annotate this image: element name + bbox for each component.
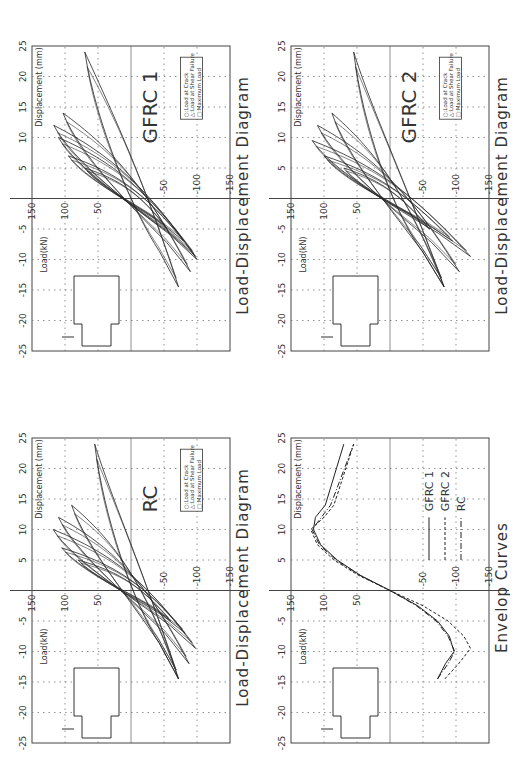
x-tick-label: -15: [18, 675, 28, 690]
specimen-label: RC: [138, 486, 162, 513]
y-tick-label: -50: [159, 180, 169, 195]
chart-svg: -25-20-15-10-551015202515010050-50-100-1…: [259, 392, 518, 783]
y-tick-label: 50: [352, 202, 362, 214]
marker-legend-item: ○:Load at Crack: [183, 464, 189, 509]
x-tick-label: 20: [277, 463, 287, 475]
x-tick-label: -10: [277, 252, 287, 267]
y-tick-label: 50: [93, 594, 103, 606]
marker-legend-item: □:Maximum Load: [455, 68, 461, 117]
x-tick-label: 25: [277, 40, 287, 51]
y-tick-label: 150: [286, 202, 296, 219]
x-tick-label: 20: [277, 71, 287, 83]
x-axis-label: Displacement (mm): [35, 47, 44, 126]
x-tick-label: 25: [18, 40, 28, 51]
y-tick-label: -50: [159, 572, 169, 587]
y-axis-label: Load(kN): [40, 629, 49, 665]
hysteresis-loop: [63, 113, 190, 272]
chart-svg: -25-20-15-10-551015202515010050-50-100-1…: [259, 0, 518, 391]
x-tick-label: -10: [18, 644, 28, 659]
x-tick-label: 15: [18, 493, 28, 504]
panel-envelop: -25-20-15-10-551015202515010050-50-100-1…: [259, 392, 518, 783]
hysteresis-loop: [62, 144, 192, 251]
x-tick-label: 15: [277, 493, 287, 504]
y-tick-label: 150: [286, 594, 296, 611]
hysteresis-loop: [58, 138, 195, 257]
panel-gfrc2: -25-20-15-10-551015202515010050-50-100-1…: [259, 0, 518, 391]
legend-label: GFRC 2: [439, 471, 452, 511]
y-axis-label: Load(kN): [299, 629, 308, 665]
y-tick-label: -100: [451, 566, 461, 587]
marker-legend-item: △:Load at Shear Failure: [448, 52, 454, 117]
x-tick-label: -25: [277, 344, 287, 359]
x-tick-label: -15: [18, 283, 28, 298]
x-tick-label: -20: [18, 313, 28, 328]
y-tick-label: -100: [192, 566, 202, 587]
x-tick-label: -15: [277, 675, 287, 690]
marker-legend-item: △:Load at Shear Failure: [189, 52, 195, 117]
hysteresis-loop: [53, 530, 196, 649]
x-tick-label: -10: [277, 644, 287, 659]
marker-legend-item: ○:Load at Crack: [183, 72, 189, 117]
chart-title: Load-Displacement Diagram: [234, 392, 252, 783]
marker-legend-item: △:Load at Shear Failure: [189, 444, 195, 509]
x-tick-label: 10: [18, 524, 28, 536]
x-tick-label: 15: [18, 101, 28, 112]
specimen-label: GFRC 1: [138, 71, 162, 144]
x-tick-label: -20: [277, 313, 287, 328]
y-axis-label: Load(kN): [299, 237, 308, 273]
marker-legend-item: □:Maximum Load: [196, 460, 202, 509]
x-tick-label: -25: [18, 736, 28, 751]
x-tick-label: 10: [18, 132, 28, 144]
chart-svg: -25-20-15-10-551015202515010050-50-100-1…: [0, 392, 259, 783]
y-tick-label: 100: [60, 594, 70, 611]
y-tick-label: 100: [319, 594, 329, 611]
chart-svg: -25-20-15-10-551015202515010050-50-100-1…: [0, 0, 259, 391]
y-tick-label: 150: [27, 202, 37, 219]
specimen-section-icon: [62, 276, 119, 346]
x-axis-label: Displacement (mm): [35, 439, 44, 518]
x-tick-label: -25: [277, 736, 287, 751]
x-tick-label: 25: [18, 432, 28, 443]
x-tick-label: -20: [277, 705, 287, 720]
y-tick-label: 50: [93, 202, 103, 214]
hysteresis-loop: [332, 113, 444, 287]
x-tick-label: 5: [277, 165, 287, 171]
x-tick-label: -15: [277, 283, 287, 298]
x-tick-label: 20: [18, 463, 28, 475]
specimen-section-icon: [321, 668, 378, 738]
y-tick-label: 100: [319, 202, 329, 219]
chart-title: Load-Displacement Diagram: [234, 0, 252, 391]
panel-rc: -25-20-15-10-551015202515010050-50-100-1…: [0, 392, 259, 783]
y-tick-label: -100: [451, 174, 461, 195]
specimen-section-icon: [321, 276, 378, 346]
y-tick-label: 100: [60, 202, 70, 219]
x-tick-label: 25: [277, 432, 287, 443]
marker-legend-item: ○:Load at Crack: [442, 72, 448, 117]
x-tick-label: -20: [18, 705, 28, 720]
y-axis-label: Load(kN): [40, 237, 49, 273]
x-tick-label: -5: [277, 617, 287, 626]
x-tick-label: 5: [18, 165, 28, 171]
x-axis-label: Displacement (mm): [294, 47, 303, 126]
x-tick-label: -25: [18, 344, 28, 359]
chart-title: Load-Displacement Diagram: [493, 0, 511, 391]
y-tick-label: -50: [418, 572, 428, 587]
legend-label: GFRC 1: [423, 471, 436, 511]
x-tick-label: -5: [277, 225, 287, 234]
y-tick-label: 50: [352, 594, 362, 606]
x-tick-label: -5: [18, 617, 28, 626]
y-tick-label: -50: [418, 180, 428, 195]
x-tick-label: 5: [18, 557, 28, 563]
marker-legend-item: □:Maximum Load: [196, 68, 202, 117]
x-tick-label: 5: [277, 557, 287, 563]
chart-title: Envelop Curves: [493, 392, 511, 783]
x-tick-label: 10: [277, 132, 287, 144]
y-tick-label: 150: [27, 594, 37, 611]
x-axis-label: Displacement (mm): [294, 439, 303, 518]
specimen-section-icon: [62, 668, 119, 738]
x-tick-label: 20: [18, 71, 28, 83]
panel-gfrc1: -25-20-15-10-551015202515010050-50-100-1…: [0, 0, 259, 391]
x-tick-label: 15: [277, 101, 287, 112]
x-tick-label: -10: [18, 252, 28, 267]
x-tick-label: 10: [277, 524, 287, 536]
